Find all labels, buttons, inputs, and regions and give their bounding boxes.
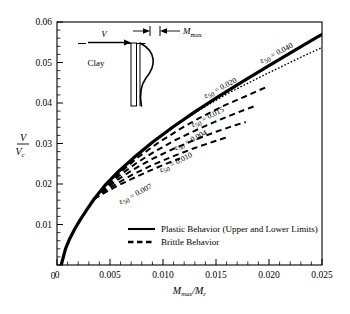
x-axis-tick-label: 0.015 [205,270,227,280]
moment-dimension-arrow-left [143,28,150,34]
curve-label: ε50 = 0.004 [173,128,210,153]
legend: Plastic Behavior (Upper and Lower Limits… [128,224,318,247]
moment-dimension-arrow-right [160,28,167,34]
pile-shape [131,43,137,106]
curve-label-text: ε50 = 0.004 [173,128,210,153]
moment-diagram-curve [140,43,153,106]
y-axis-tick-label: 0.02 [35,179,52,189]
legend-item-label: Brittle Behavior [161,237,219,247]
x-axis-title: Mmax/Mc [172,285,206,297]
x-axis-tick-label: 0 [55,270,60,280]
y-axis-title-numerator: V [20,132,28,143]
load-arrow-head [124,39,131,45]
load-label: V [101,29,108,39]
curve-label-text: ε50 = 0.015 [190,105,227,130]
y-axis-tick-label: 0.04 [35,98,52,108]
y-axis-tick-label: 0 [51,271,56,281]
y-axis-title: VVc [15,132,29,158]
curve-label: ε50 = 0.015 [190,105,227,130]
y-axis-tick-label: 0.05 [35,58,52,68]
y-axis-tick-label: 0.03 [35,139,52,149]
y-axis-title-denominator: Vc [15,146,24,158]
x-axis-tick-label: 0.005 [99,270,121,280]
y-axis-tick-label: 0.06 [35,17,52,27]
x-axis-tick-label: 0.020 [258,270,280,280]
soil-label: Clay [88,58,105,68]
legend-item: Plastic Behavior (Upper and Lower Limits… [128,224,318,234]
inset-diagram: VClayMmax [78,26,203,106]
chart-figure: 00.0050.0100.0150.0200.02500.010.020.030… [0,0,350,314]
chart-svg: 00.0050.0100.0150.0200.02500.010.020.030… [0,0,350,314]
legend-item-label: Plastic Behavior (Upper and Lower Limits… [161,224,318,234]
curve-label: ε50 = 0.007 [117,182,154,207]
legend-item: Brittle Behavior [128,237,219,247]
y-axis-tick-label: 0.01 [35,220,52,230]
curve-label-text: ε50 = 0.007 [117,182,154,207]
x-axis-tick-label: 0.025 [311,270,333,280]
x-axis-tick-label: 0.010 [152,270,174,280]
x-axis-title-text: Mmax/Mc [172,285,206,297]
data-curve [94,106,254,199]
moment-label: Mmax [182,26,203,37]
